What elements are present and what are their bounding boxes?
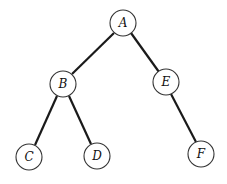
edge-e-f [171,94,196,142]
edge-a-e [131,33,159,72]
node-label: C [24,150,33,164]
edge-a-b [72,33,114,74]
edge-b-c [35,96,57,145]
node-e: E [153,69,179,95]
edge-b-d [69,96,91,144]
node-c: C [16,144,42,170]
node-label: B [58,77,68,91]
node-label: E [161,75,171,89]
node-label: D [91,149,102,163]
node-d: D [84,143,110,169]
node-b: B [50,71,76,97]
tree-diagram: A B E C D F [0,0,227,184]
node-label: A [118,16,128,30]
node-label: F [196,147,206,161]
node-a: A [110,10,136,36]
node-f: F [188,141,214,167]
